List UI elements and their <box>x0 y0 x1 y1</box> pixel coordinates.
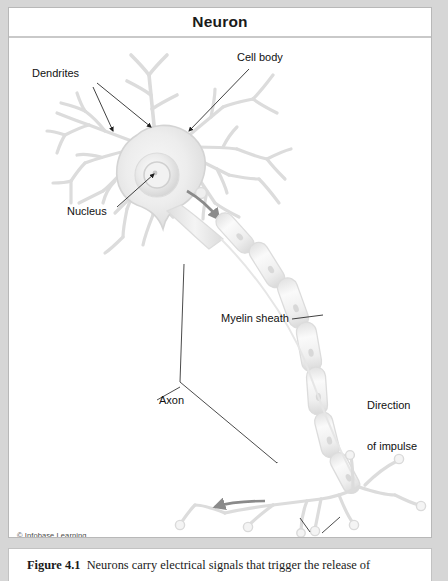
leader-cell-body <box>189 69 249 131</box>
label-direction-line1: Direction <box>367 399 417 413</box>
figure-title-bar: Neuron <box>9 8 431 38</box>
label-axon-terminals: Axon terminals <box>315 535 388 537</box>
label-cell-body: Cell body <box>237 51 283 64</box>
leader-terminals-b <box>322 517 340 533</box>
figure-caption-body: Neurons carry electrical signals that tr… <box>80 558 370 572</box>
copyright-notice: © Infobase Learning <box>17 531 87 537</box>
figure-caption: Figure 4.1 Neurons carry electrical sign… <box>27 556 417 575</box>
dendrite-top-shape <box>127 55 177 135</box>
diagram-area: Dendrites Cell body Nucleus Myelin sheat… <box>9 39 431 537</box>
label-myelin-sheath: Myelin sheath <box>221 312 289 325</box>
axon-hillock-shape <box>167 205 223 249</box>
label-direction-line2: of impulse <box>367 440 417 454</box>
page-title: Neuron <box>9 13 431 31</box>
figure-caption-block: Figure 4.1 Neurons carry electrical sign… <box>8 548 432 581</box>
label-direction-of-impulse: Direction of impulse <box>367 372 417 480</box>
figure-card: Neuron <box>8 7 432 538</box>
leader-axon-bracket <box>180 264 277 463</box>
figure-page: Neuron <box>0 0 448 581</box>
figure-number: Figure 4.1 <box>27 558 80 572</box>
label-nucleus: Nucleus <box>67 205 107 218</box>
label-dendrites: Dendrites <box>32 67 79 80</box>
label-axon: Axon <box>159 394 184 407</box>
